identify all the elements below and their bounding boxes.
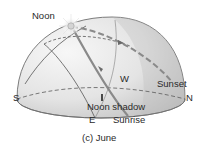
sun-icon — [68, 23, 74, 29]
label-north: N — [186, 93, 193, 103]
celestial-dome-diagram: Noon W Sunset S N Noon shadow E Sunrise … — [0, 0, 200, 153]
label-noon-shadow: Noon shadow — [87, 102, 145, 112]
figure-caption: (c) June — [82, 133, 116, 143]
label-south: S — [13, 93, 19, 103]
dome-graphic — [0, 0, 200, 153]
label-sunset: Sunset — [157, 79, 187, 89]
label-east: E — [89, 115, 95, 125]
label-sunrise: Sunrise — [113, 115, 145, 125]
label-west: W — [120, 74, 129, 84]
label-noon: Noon — [32, 11, 55, 21]
